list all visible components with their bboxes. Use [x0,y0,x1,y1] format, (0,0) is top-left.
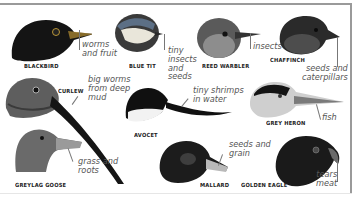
golden-eagle-label: GOLDEN EAGLE [241,182,288,188]
chaffinch-label: CHAFFINCH [270,57,305,63]
blackbird-label: BLACKBIRD [24,63,59,69]
chaffinch-head-image [276,12,342,58]
blue-tit-diet: tiny insects and seeds [168,46,197,81]
reed-warbler-head-image [195,12,261,60]
grey-heron-diet: fish [322,113,337,122]
greylag-goose-diet: grass and roots [78,157,118,175]
golden-eagle-diet: tears meat [316,170,337,188]
blue-tit-head-image [113,12,163,54]
top-border [0,3,351,5]
blue-tit-label: BLUE TIT [129,63,156,69]
greylag-goose-label: GREYLAG GOOSE [15,182,66,188]
blackbird-diet: worms and fruit [82,40,117,58]
blackbird-pointer [79,30,80,50]
right-border [350,3,352,193]
reed-warbler-label: REED WARBLER [202,63,249,69]
grey-heron-label: GREY HERON [266,120,306,126]
mallard-label: MALLARD [200,182,229,188]
bottom-border [0,193,352,194]
greylag-goose-head-image [12,124,84,176]
illustration-frame: worms and fruit BLACKBIRD tiny insects a… [0,0,352,196]
blue-tit-pointer [164,34,165,50]
avocet-diet: tiny shrimps in water [193,86,244,104]
reed-warbler-pointer [250,33,251,49]
curlew-label: CURLEW [58,88,84,94]
avocet-label: AVOCET [134,132,158,138]
mallard-diet: seeds and grain [229,140,271,158]
